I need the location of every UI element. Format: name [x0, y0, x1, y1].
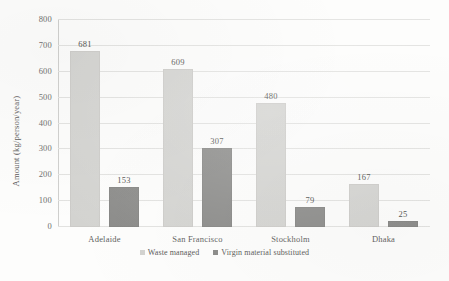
y-axis-tick-label: 300: [39, 143, 52, 153]
bar-value-label: 25: [399, 209, 408, 219]
bar-rect: [349, 184, 379, 227]
plot-area: 0100200300400500600700800 681153Adelaide…: [58, 20, 430, 227]
bar-value-label: 153: [117, 175, 130, 185]
y-axis-tick-label: 100: [39, 195, 52, 205]
x-axis-tick-label: Adelaide: [88, 234, 120, 244]
y-axis-tick-label: 800: [39, 14, 52, 24]
bar-rect: [295, 207, 325, 227]
y-axis-tick-label: 200: [39, 169, 52, 179]
bar-group: 681153Adelaide: [58, 20, 151, 227]
y-axis-label: Amount (kg/person/year): [11, 95, 21, 186]
y-axis-tick-label: 700: [39, 40, 52, 50]
legend-label: Waste managed: [148, 248, 200, 257]
x-axis-tick-label: San Francisco: [172, 234, 223, 244]
bar[interactable]: 25: [388, 221, 418, 227]
chart-legend: Waste managedVirgin material substituted: [0, 248, 449, 257]
bar[interactable]: 681: [70, 51, 100, 227]
bar-group: 609307San Francisco: [151, 20, 244, 227]
bar[interactable]: 480: [256, 103, 286, 227]
bar-value-label: 307: [210, 136, 223, 146]
bar[interactable]: 153: [109, 187, 139, 227]
bar-value-label: 681: [78, 39, 91, 49]
bar[interactable]: 79: [295, 207, 325, 227]
legend-item[interactable]: Virgin material substituted: [213, 248, 309, 257]
bar-rect: [163, 69, 193, 227]
bar-rect: [202, 148, 232, 227]
legend-swatch-icon: [213, 250, 218, 255]
x-axis-tick-label: Stockholm: [271, 234, 310, 244]
y-axis-tick-label: 500: [39, 92, 52, 102]
bar-rect: [70, 51, 100, 227]
bar[interactable]: 609: [163, 69, 193, 227]
bar-value-label: 167: [357, 172, 370, 182]
y-axis-tick-label: 0: [48, 221, 52, 231]
bar-group: 16725Dhaka: [337, 20, 430, 227]
legend-label: Virgin material substituted: [221, 248, 309, 257]
bar[interactable]: 307: [202, 148, 232, 227]
y-axis-tick-label: 400: [39, 118, 52, 128]
bar-value-label: 609: [171, 57, 184, 67]
bar-value-label: 79: [306, 195, 315, 205]
bar-rect: [109, 187, 139, 227]
bar-rect: [256, 103, 286, 227]
legend-item[interactable]: Waste managed: [140, 248, 200, 257]
bar-rect: [388, 221, 418, 227]
bar-value-label: 480: [264, 91, 277, 101]
y-axis-tick-label: 600: [39, 66, 52, 76]
bar-chart-figure: Amount (kg/person/year) 0100200300400500…: [0, 0, 449, 281]
legend-swatch-icon: [140, 250, 145, 255]
x-axis-tick-label: Dhaka: [372, 234, 395, 244]
bar-group: 48079Stockholm: [244, 20, 337, 227]
bar-groups: 681153Adelaide609307San Francisco48079St…: [58, 20, 430, 227]
bar[interactable]: 167: [349, 184, 379, 227]
